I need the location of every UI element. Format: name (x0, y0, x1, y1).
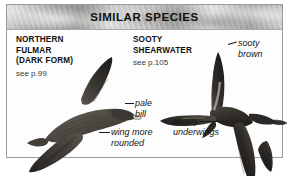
callout-pale-bill-line-1: pale (135, 98, 152, 109)
callout-silvery-line-2: underwings (173, 127, 219, 138)
species-label-sooty-shearwater: SOOTY SHEARWATER see p.105 (133, 35, 192, 68)
shearwater-bill (273, 120, 287, 125)
callout-wing-more-rounded: wing more rounded (111, 127, 153, 148)
species-page-reference-fulmar[interactable]: see p.99 (16, 68, 73, 79)
callout-sooty-line-1: sooty (238, 38, 263, 49)
leader-line-sooty-brown (228, 42, 237, 45)
callout-wing-line-2: rounded (111, 138, 153, 149)
panel-body: NORTHERN FULMAR (DARK FORM) see p.99 SOO… (7, 30, 282, 157)
species-name-line-1: NORTHERN (16, 35, 73, 46)
species-name-line-1: SOOTY (133, 35, 192, 46)
callout-silvery-line-1: silvery (173, 116, 219, 127)
leader-line-pale-bill (125, 103, 134, 104)
species-name-line-2: FULMAR (16, 46, 73, 57)
species-page-reference-shearwater[interactable]: see p.105 (133, 57, 192, 68)
species-name-line-2: SHEARWATER (133, 46, 192, 57)
callout-wing-line-1: wing more (111, 127, 153, 138)
callout-pale-bill-line-2: bill (135, 109, 152, 120)
similar-species-panel: SIMILAR SPECIES (6, 4, 283, 158)
species-label-northern-fulmar: NORTHERN FULMAR (DARK FORM) see p.99 (16, 35, 73, 79)
shearwater-illustration (160, 52, 287, 176)
callout-sooty-line-2: brown (238, 49, 263, 60)
leader-line-wing-more-rounded (99, 132, 110, 133)
callout-sooty-brown: sooty brown (238, 38, 263, 59)
field-guide-page: SIMILAR SPECIES (0, 0, 290, 176)
callout-silvery-underwings: silvery underwings (173, 116, 219, 137)
panel-title: SIMILAR SPECIES (7, 5, 282, 30)
shearwater-silvery-underwing (214, 82, 220, 110)
callout-pale-bill: pale bill (135, 98, 152, 119)
species-name-line-3: (DARK FORM) (16, 56, 73, 67)
